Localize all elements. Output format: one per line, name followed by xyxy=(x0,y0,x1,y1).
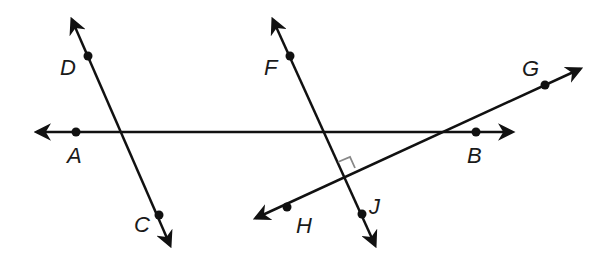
point-H xyxy=(283,203,292,212)
label-G: G xyxy=(522,56,539,81)
label-A: A xyxy=(65,143,82,168)
geometry-diagram: D A C F B J H G xyxy=(0,0,611,257)
point-J xyxy=(358,210,367,219)
label-H: H xyxy=(296,213,312,238)
point-G xyxy=(541,81,550,90)
point-B xyxy=(472,128,481,137)
label-F: F xyxy=(264,55,279,80)
label-D: D xyxy=(60,55,76,80)
point-A xyxy=(72,128,81,137)
label-J: J xyxy=(368,194,381,219)
label-B: B xyxy=(467,143,482,168)
point-F xyxy=(286,52,295,61)
label-C: C xyxy=(134,212,150,237)
point-D xyxy=(84,52,93,61)
point-C xyxy=(155,211,164,220)
